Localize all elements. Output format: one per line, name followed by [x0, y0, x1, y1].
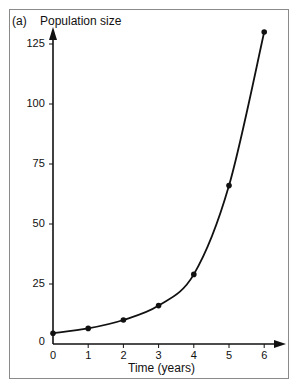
x-tick-label: 1: [85, 349, 91, 361]
x-tick-label: 5: [226, 349, 232, 361]
y-tick-label: 125: [26, 37, 44, 49]
x-tick-label: 3: [156, 349, 162, 361]
x-axis-arrow-icon: [274, 340, 286, 348]
population-curve: [53, 32, 264, 333]
y-tick-label: 25: [33, 277, 45, 289]
y-axis-arrow-icon: [49, 27, 57, 40]
data-point: [191, 272, 197, 278]
y-tick-label: 100: [26, 97, 44, 109]
data-point: [85, 326, 91, 332]
data-point: [226, 183, 232, 189]
y-tick-label: 75: [33, 157, 45, 169]
x-tick-label: 4: [191, 349, 197, 361]
y-tick-label: 50: [33, 217, 45, 229]
x-tick-label: 6: [261, 349, 267, 361]
data-point: [50, 330, 56, 336]
x-tick-label: 0: [50, 349, 56, 361]
data-point: [261, 29, 267, 35]
y-tick-label: 0: [39, 335, 45, 347]
plot-area: [0, 0, 299, 388]
data-point: [156, 303, 162, 309]
x-tick-label: 2: [120, 349, 126, 361]
data-point: [121, 317, 127, 323]
